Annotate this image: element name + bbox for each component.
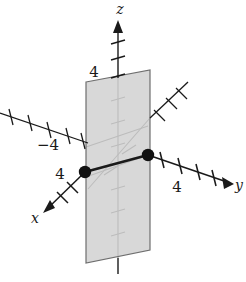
x-intercept-point <box>79 166 91 178</box>
x-tick-label-4: 4 <box>55 165 65 183</box>
y-tick-label-negative-4: −4 <box>37 136 59 154</box>
y-tick-label-4: 4 <box>172 178 182 196</box>
y-axis-positive-line <box>148 155 230 183</box>
shaded-vertical-plane <box>86 70 150 263</box>
x-axis-positive-line <box>47 172 85 209</box>
z-axis-label: z <box>115 1 124 17</box>
x-negative-tick-1 <box>154 110 165 121</box>
y-axis-label: y <box>234 177 244 193</box>
z-tick-label-4: 4 <box>89 63 99 81</box>
z-axis-arrowhead <box>113 20 123 33</box>
x-axis-label: x <box>31 210 39 226</box>
figure-canvas: z y x 4 4 −4 4 <box>0 0 246 282</box>
coordinate-system-diagram: z y x 4 4 −4 4 <box>0 0 246 282</box>
y-axis-positive-group <box>148 152 234 189</box>
y-axis-arrowhead <box>222 177 234 189</box>
x-axis-negative-group <box>150 82 188 121</box>
y-intercept-point <box>142 149 154 161</box>
x-negative-tick-2 <box>166 98 177 109</box>
x-negative-tick-3 <box>176 88 187 99</box>
